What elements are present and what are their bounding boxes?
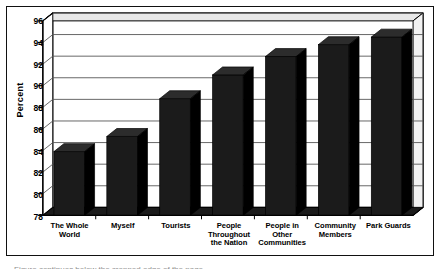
bar-side-face — [85, 144, 95, 216]
bar — [266, 57, 297, 216]
y-axis-title: Percent — [15, 65, 25, 135]
bar-side-face — [349, 37, 359, 216]
y-tick-label: 94 — [21, 39, 43, 47]
x-tick-label: Park Guards — [362, 222, 415, 231]
x-tick-label: CommunityMembers — [309, 222, 362, 239]
bar — [213, 75, 244, 215]
x-tick-label-line: Tourists — [161, 221, 190, 230]
bar-side-face — [402, 29, 412, 215]
plot-left-face — [43, 13, 53, 215]
bar — [107, 136, 138, 215]
bar-side-face — [243, 67, 253, 215]
x-tick-label: PeopleThroughoutthe Nation — [202, 222, 255, 248]
y-tick-label: 78 — [21, 213, 43, 221]
bar-side-face — [296, 49, 306, 216]
y-tick-label: 82 — [21, 169, 43, 177]
x-tick-label-line: Myself — [111, 221, 134, 230]
plot-top-face — [43, 13, 423, 21]
y-tick-label: 84 — [21, 148, 43, 156]
figure-frame: 78808284868890929496 Percent The WholeWo… — [6, 6, 434, 256]
x-tick-label-line: Members — [319, 230, 352, 239]
y-tick-label: 80 — [21, 191, 43, 199]
bar — [371, 37, 402, 215]
bar — [160, 99, 191, 216]
x-tick-label-line: the Nation — [211, 238, 248, 247]
x-tick-label: Tourists — [149, 222, 202, 231]
x-tick-label-line: Park Guards — [366, 221, 411, 230]
x-tick-label: People inOtherCommunities — [256, 222, 309, 248]
cropped-caption-sliver: Figure continues below the cropped edge … — [14, 265, 428, 269]
x-tick-label-line: World — [59, 230, 80, 239]
bar-chart — [7, 7, 433, 255]
y-tick-label: 96 — [21, 17, 43, 25]
bar-side-face — [190, 91, 200, 216]
x-tick-label: Myself — [96, 222, 149, 231]
x-tick-label-line: Communities — [258, 238, 306, 247]
bar — [318, 45, 349, 216]
bar — [54, 152, 85, 216]
plot-right-face — [413, 13, 423, 215]
bar-side-face — [138, 129, 148, 216]
x-tick-label: The WholeWorld — [43, 222, 96, 239]
